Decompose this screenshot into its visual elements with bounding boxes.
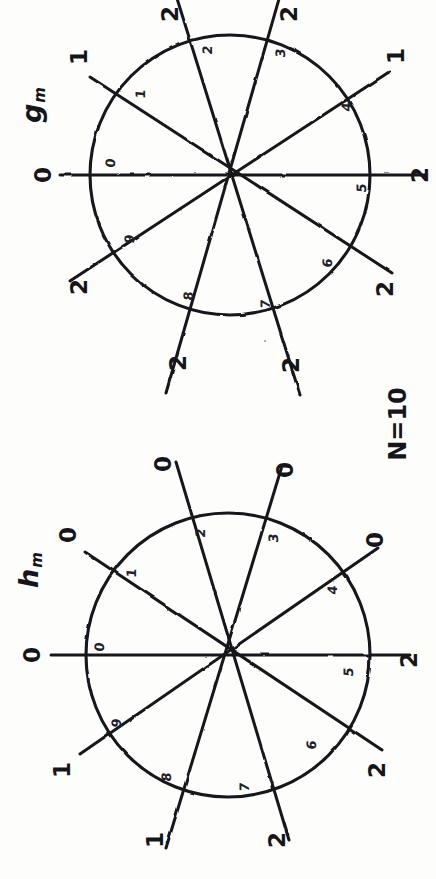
outer-label-5: 2 — [409, 167, 432, 183]
spoke-diagram-h — [0, 440, 436, 879]
outer-label-0: 0 — [21, 647, 44, 663]
outer-label-9: 2 — [68, 279, 91, 295]
index-label-8: 8 — [182, 291, 195, 301]
index-label-0: 0 — [93, 642, 106, 652]
outer-label-8: 1 — [144, 832, 167, 848]
index-label-2: 2 — [201, 45, 214, 55]
spoke-line-2-7 — [175, 0, 300, 395]
index-label-7: 7 — [259, 299, 272, 309]
outer-label-2: 2 — [159, 6, 182, 22]
index-label-5: 5 — [342, 667, 355, 677]
index-label-1: 1 — [125, 568, 138, 578]
index-label-3: 3 — [267, 533, 280, 543]
series-label-g: gm — [18, 87, 48, 123]
index-label-4: 4 — [340, 102, 353, 112]
series-label-h: hm — [15, 552, 45, 588]
spoke-diagram-g — [0, 0, 436, 439]
outer-label-5: 2 — [398, 652, 421, 668]
index-label-4: 4 — [326, 585, 339, 595]
index-label-8: 8 — [160, 772, 173, 782]
index-label-9: 9 — [110, 718, 123, 728]
index-label-2: 2 — [194, 528, 207, 538]
index-label-3: 3 — [274, 48, 287, 58]
outer-label-1: 1 — [68, 49, 91, 65]
outer-label-9: 1 — [51, 762, 74, 778]
outer-label-4: 0 — [364, 532, 387, 548]
index-label-0: 0 — [104, 158, 117, 168]
outer-label-3: 0 — [274, 462, 297, 478]
spoke-line-3-8 — [166, 0, 281, 393]
outer-label-1: 0 — [57, 527, 80, 543]
index-label-9: 9 — [123, 234, 136, 244]
index-label-6: 6 — [321, 258, 334, 268]
index-label-7: 7 — [238, 782, 251, 792]
outer-label-8: 2 — [167, 355, 190, 371]
outer-label-7: 2 — [280, 357, 303, 373]
index-label-5: 5 — [355, 183, 368, 193]
outer-label-7: 2 — [266, 832, 289, 848]
outer-label-4: 1 — [385, 48, 408, 64]
index-label-6: 6 — [305, 740, 318, 750]
index-label-1: 1 — [134, 89, 147, 99]
outer-label-3: 2 — [278, 6, 301, 22]
diagram-panel-g: gm N=10 0 1 2 2 1 2 2 2 2 2 0 1 2 3 4 5 … — [0, 0, 436, 439]
outer-label-6: 2 — [374, 281, 397, 297]
outer-label-0: 0 — [32, 167, 55, 183]
diagram-panel-h: hm 0 0 0 0 0 2 2 2 1 1 0 1 2 3 4 5 6 7 8… — [0, 440, 436, 879]
outer-label-2: 0 — [152, 456, 175, 472]
outer-label-6: 2 — [366, 762, 389, 778]
